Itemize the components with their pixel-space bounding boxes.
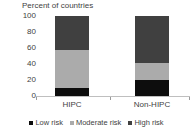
x-axis-tick-mid bbox=[110, 97, 111, 100]
legend-swatch-moderate-risk-icon bbox=[70, 121, 74, 125]
bar-segment-hipc-high-risk bbox=[55, 16, 89, 50]
x-axis-tick-end bbox=[189, 97, 190, 100]
y-tick-label-20: 20 bbox=[14, 76, 36, 84]
bar-segment-non-hipc-low-risk bbox=[135, 80, 169, 96]
y-tick-label-40: 40 bbox=[14, 60, 36, 68]
y-tick-label-60: 60 bbox=[14, 44, 36, 52]
legend-label-low-risk: Low risk bbox=[35, 118, 63, 127]
bar-segment-non-hipc-moderate-risk bbox=[135, 63, 169, 80]
x-axis-tick-start bbox=[36, 97, 37, 100]
x-tick-label-non-hipc: Non-HIPC bbox=[126, 100, 178, 109]
stacked-bar-chart: Percent of countries 100 80 60 40 20 0 bbox=[0, 0, 193, 134]
legend-swatch-high-risk-icon bbox=[128, 121, 132, 125]
y-tick-label-100: 100 bbox=[14, 12, 36, 20]
x-axis-line bbox=[36, 96, 190, 97]
legend-label-high-risk: High risk bbox=[134, 118, 163, 127]
x-tick-label-hipc: HIPC bbox=[50, 100, 94, 109]
plot-area: 100 80 60 40 20 0 bbox=[0, 0, 193, 110]
legend-label-moderate-risk: Moderate risk bbox=[76, 118, 121, 127]
bar-stack-hipc bbox=[55, 16, 89, 96]
y-tick-label-80: 80 bbox=[14, 28, 36, 36]
legend-swatch-low-risk-icon bbox=[29, 121, 33, 125]
legend-item-moderate-risk: Moderate risk bbox=[70, 118, 121, 127]
bar-segment-hipc-moderate-risk bbox=[55, 50, 89, 88]
y-axis: 100 80 60 40 20 0 bbox=[0, 0, 36, 110]
legend-item-low-risk: Low risk bbox=[29, 118, 63, 127]
bar-stack-non-hipc bbox=[135, 16, 169, 96]
bar-segment-non-hipc-high-risk bbox=[135, 16, 169, 63]
y-tick-label-0: 0 bbox=[14, 92, 36, 100]
chart-legend: Low risk Moderate risk High risk bbox=[0, 118, 193, 127]
bar-segment-hipc-low-risk bbox=[55, 88, 89, 96]
legend-item-high-risk: High risk bbox=[128, 118, 163, 127]
